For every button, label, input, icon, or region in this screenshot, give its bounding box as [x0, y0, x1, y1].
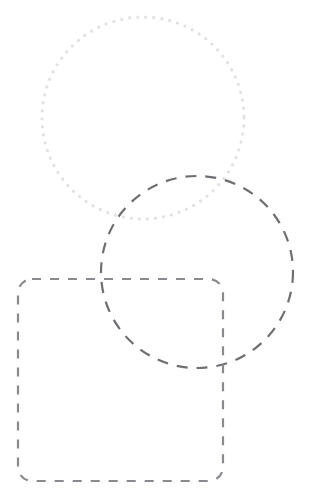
shape-canvas-svg [0, 0, 316, 500]
canvas-background [0, 0, 316, 500]
diagram-canvas [0, 0, 316, 500]
